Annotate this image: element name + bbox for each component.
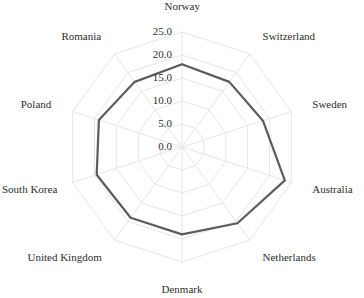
category-label-poland: Poland — [21, 99, 52, 110]
category-label-australia: Australia — [312, 184, 352, 195]
radial-tick-label: 5.0 — [128, 118, 172, 129]
category-label-romania: Romania — [61, 31, 101, 42]
radar-chart: 25.020.015.010.05.00.0 NorwaySwitzerland… — [0, 0, 364, 298]
category-label-switzerland: Switzerland — [263, 31, 316, 42]
radial-tick-label: 10.0 — [128, 95, 172, 106]
series-polygons — [97, 64, 285, 234]
radial-tick-label: 15.0 — [128, 72, 172, 83]
series-polygon — [97, 64, 285, 234]
category-label-denmark: Denmark — [162, 284, 203, 295]
category-label-sweden: Sweden — [312, 99, 347, 110]
category-label-norway: Norway — [165, 1, 200, 12]
category-label-netherlands: Netherlands — [263, 252, 316, 263]
radial-tick-label: 0.0 — [128, 141, 172, 152]
category-label-united-kingdom: United Kingdom — [27, 252, 101, 263]
radial-tick-label: 20.0 — [128, 49, 172, 60]
grid-spoke — [182, 111, 291, 147]
grid-spoke — [73, 147, 182, 183]
radial-tick-label: 25.0 — [128, 26, 172, 37]
grid-spoke — [114, 147, 182, 240]
grid-spoke — [182, 147, 250, 240]
category-label-south-korea: South Korea — [2, 184, 57, 195]
